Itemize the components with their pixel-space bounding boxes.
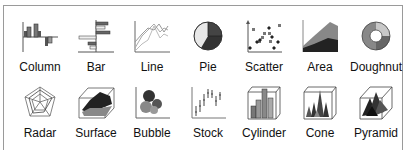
chart-type-panel: Column Bar bbox=[3, 5, 403, 150]
chart-type-area[interactable]: Area bbox=[292, 18, 348, 78]
chart-type-label: Radar bbox=[24, 126, 57, 140]
chart-type-label: Pie bbox=[199, 60, 216, 74]
bar-chart-icon bbox=[76, 18, 116, 56]
bubble-chart-icon bbox=[132, 84, 172, 122]
cone-chart-icon bbox=[300, 84, 340, 122]
chart-type-doughnut[interactable]: Doughnut bbox=[348, 18, 404, 78]
chart-type-label: Line bbox=[141, 60, 164, 74]
chart-type-surface[interactable]: Surface bbox=[68, 84, 124, 144]
chart-type-line[interactable]: Line bbox=[124, 18, 180, 78]
chart-type-label: Column bbox=[19, 60, 60, 74]
radar-chart-icon bbox=[20, 84, 60, 122]
chart-type-column[interactable]: Column bbox=[12, 18, 68, 78]
chart-type-cylinder[interactable]: Cylinder bbox=[236, 84, 292, 144]
cylinder-chart-icon bbox=[244, 84, 284, 122]
chart-type-cone[interactable]: Cone bbox=[292, 84, 348, 144]
chart-type-label: Stock bbox=[193, 126, 223, 140]
chart-type-label: Cone bbox=[306, 126, 335, 140]
chart-type-label: Bubble bbox=[133, 126, 170, 140]
chart-type-label: Area bbox=[307, 60, 332, 74]
chart-type-label: Bar bbox=[87, 60, 106, 74]
chart-type-label: Doughnut bbox=[350, 60, 402, 74]
scatter-chart-icon bbox=[244, 18, 284, 56]
chart-type-label: Cylinder bbox=[242, 126, 286, 140]
chart-type-pyramid[interactable]: Pyramid bbox=[348, 84, 404, 144]
chart-type-scatter[interactable]: Scatter bbox=[236, 18, 292, 78]
chart-type-pie[interactable]: Pie bbox=[180, 18, 236, 78]
pyramid-chart-icon bbox=[356, 84, 396, 122]
chart-type-grid: Column Bar bbox=[12, 18, 404, 144]
stock-chart-icon bbox=[188, 84, 228, 122]
column-chart-icon bbox=[20, 18, 60, 56]
chart-type-radar[interactable]: Radar bbox=[12, 84, 68, 144]
area-chart-icon bbox=[300, 18, 340, 56]
doughnut-chart-icon bbox=[356, 18, 396, 56]
chart-type-bubble[interactable]: Bubble bbox=[124, 84, 180, 144]
chart-type-label: Pyramid bbox=[354, 126, 398, 140]
chart-type-label: Scatter bbox=[245, 60, 283, 74]
line-chart-icon bbox=[132, 18, 172, 56]
pie-chart-icon bbox=[188, 18, 228, 56]
chart-type-stock[interactable]: Stock bbox=[180, 84, 236, 144]
surface-chart-icon bbox=[76, 84, 116, 122]
chart-type-label: Surface bbox=[75, 126, 116, 140]
chart-type-bar[interactable]: Bar bbox=[68, 18, 124, 78]
